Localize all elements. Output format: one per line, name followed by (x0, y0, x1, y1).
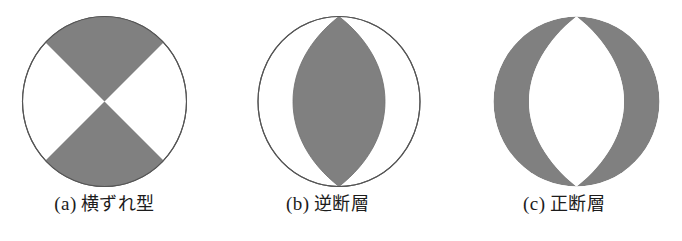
beachball-figure: (a)横ずれ型 (b)逆断層 (0, 0, 682, 241)
panel-normal-fault: (c)正断層 (446, 0, 682, 241)
caption-c: (c)正断層 (446, 192, 682, 216)
caption-b-text: 逆断層 (314, 193, 370, 214)
beachball-b-svg (209, 0, 446, 195)
caption-c-text: 正断層 (550, 193, 606, 214)
beachball-a-svg (0, 0, 209, 195)
caption-a: (a)横ずれ型 (0, 192, 209, 216)
beachball-a (0, 0, 209, 195)
panel-reverse-fault: (b)逆断層 (209, 0, 446, 241)
beachball-c (446, 0, 682, 195)
caption-c-label: (c) (523, 193, 546, 214)
beachball-c-svg (446, 0, 682, 195)
caption-a-label: (a) (54, 193, 77, 214)
beachball-b (209, 0, 446, 195)
caption-a-text: 横ずれ型 (81, 193, 155, 214)
caption-b-label: (b) (286, 193, 310, 214)
panel-strike-slip: (a)横ずれ型 (0, 0, 209, 241)
caption-b: (b)逆断層 (209, 192, 446, 216)
